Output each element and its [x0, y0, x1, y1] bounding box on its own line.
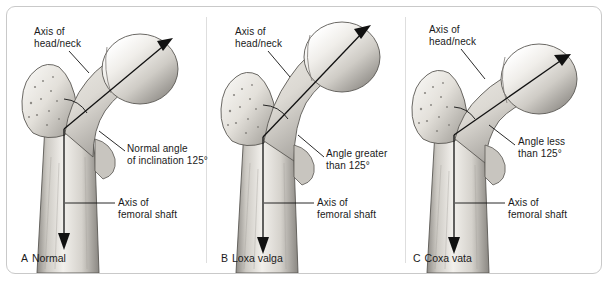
label-angle-c: Angle less than 125° [518, 136, 565, 159]
caption-text-a: Normal [32, 252, 66, 264]
leader-head-neck-b [268, 51, 290, 77]
caption-text-b: Loxa valga [232, 252, 283, 264]
label-shaft-axis-c: Axis of femoral shaft [508, 197, 567, 220]
panel-c-coxa-vata: Axis of head/neck Angle less than 125° A… [405, 7, 604, 273]
caption-letter-a: A [21, 252, 28, 264]
leader-head-neck-a [69, 51, 89, 73]
label-angle-a: Normal angle of inclination 125° [127, 143, 208, 166]
label-shaft-axis-b: Axis of femoral shaft [317, 197, 376, 220]
leader-head-neck-c [461, 49, 485, 79]
panel-b-loxa-valga: Axis of head/neck Angle greater than 125… [206, 7, 405, 273]
caption-panel-b: BLoxa valga [221, 252, 283, 264]
panel-a-normal: Axis of head/neck Normal angle of inclin… [7, 7, 206, 273]
lesser-trochanter-a [95, 139, 115, 179]
caption-letter-b: B [221, 252, 228, 264]
label-head-neck-axis-a: Axis of head/neck [34, 26, 81, 49]
label-head-neck-axis-c: Axis of head/neck [429, 24, 476, 47]
lesser-trochanter-c [485, 145, 505, 185]
label-shaft-axis-a: Axis of femoral shaft [118, 197, 177, 220]
caption-text-c: Coxa vata [425, 252, 472, 264]
caption-panel-a: ANormal [21, 252, 66, 264]
lesser-trochanter-b [294, 145, 314, 185]
label-head-neck-axis-b: Axis of head/neck [235, 26, 282, 49]
caption-panel-c: CCoxa vata [413, 252, 472, 264]
leader-angle-c [489, 125, 515, 145]
caption-letter-c: C [413, 252, 421, 264]
label-angle-b: Angle greater than 125° [326, 148, 387, 171]
figure-frame: Axis of head/neck Normal angle of inclin… [6, 6, 602, 274]
